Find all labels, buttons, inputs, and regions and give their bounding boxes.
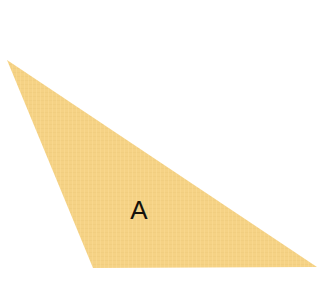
triangle-label-a: A xyxy=(130,195,148,225)
triangle-figure-svg: A xyxy=(0,0,332,306)
figure-canvas: A xyxy=(0,0,332,306)
